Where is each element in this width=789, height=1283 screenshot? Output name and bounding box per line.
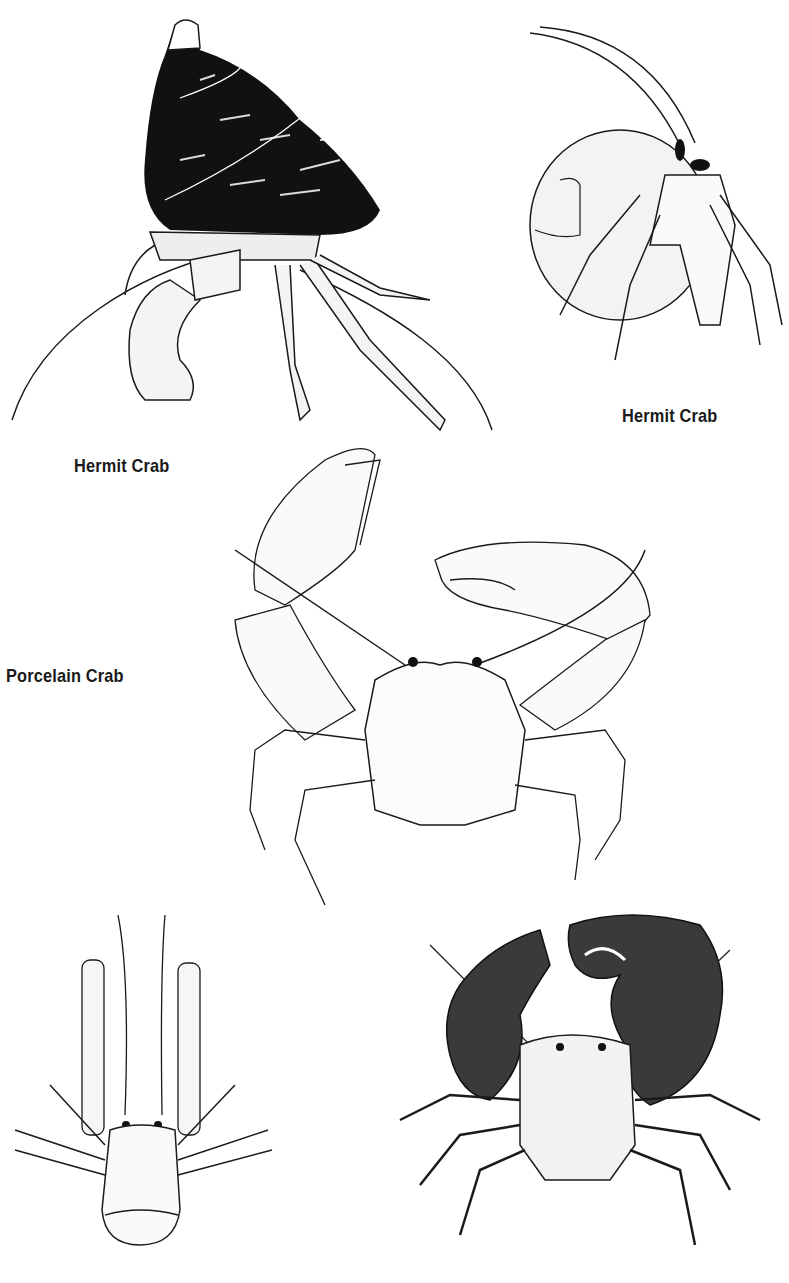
dark-claw-crab-illustration xyxy=(380,905,780,1260)
porcelain-crab-illustration xyxy=(225,440,660,920)
hermit-crab-round-shell-illustration xyxy=(520,25,789,370)
hermit-crab-label-left: Hermit Crab xyxy=(74,455,169,477)
hermit-crab-dark-shell-illustration xyxy=(0,10,500,440)
hermit-crab-label-right: Hermit Crab xyxy=(622,405,717,427)
hermit-crab-dorsal-illustration xyxy=(10,915,290,1250)
porcelain-crab-label: Porcelain Crab xyxy=(6,665,124,687)
